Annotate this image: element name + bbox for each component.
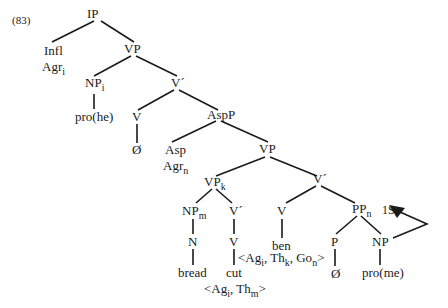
- node-v-ben: V: [277, 204, 286, 218]
- example-number: (83): [12, 13, 30, 27]
- label-1s: 1S: [382, 203, 395, 217]
- node-pp-n: PPn: [352, 202, 371, 216]
- node-ip: IP: [87, 7, 99, 21]
- node-vp-lower: VP: [259, 142, 276, 156]
- ben-theta-grid: <Agi, Thk, Gon>: [238, 251, 324, 265]
- node-bread: bread: [178, 266, 207, 280]
- node-agr-i: Agri: [42, 60, 65, 74]
- node-v-bar: V´: [171, 76, 185, 90]
- node-np-i: NPi: [85, 76, 104, 90]
- node-infl: Infl: [44, 44, 63, 58]
- node-v: V: [132, 110, 141, 124]
- node-pro-he: pro(he): [75, 110, 113, 124]
- node-v-bar-lower: V´: [313, 172, 327, 186]
- node-np-me: NP: [372, 235, 389, 249]
- cut-theta-grid: <Agi, Thm>: [204, 282, 266, 296]
- node-n: N: [188, 235, 197, 249]
- node-p: P: [331, 235, 338, 249]
- node-pro-me: pro(me): [362, 266, 404, 280]
- node-asp: Asp: [165, 143, 186, 157]
- node-agr-n: Agrn: [163, 159, 188, 173]
- node-null: Ø: [132, 143, 141, 157]
- node-vp-k: VPk: [204, 175, 226, 189]
- tree-branches: [0, 0, 448, 308]
- node-cut: cut: [226, 266, 242, 280]
- node-np-m: NPm: [182, 204, 206, 218]
- node-vp: VP: [124, 42, 141, 56]
- node-null-p: Ø: [331, 267, 340, 281]
- node-v-bar-inner: V´: [229, 204, 243, 218]
- node-v-cut: V: [229, 235, 238, 249]
- node-aspp: AspP: [207, 108, 235, 122]
